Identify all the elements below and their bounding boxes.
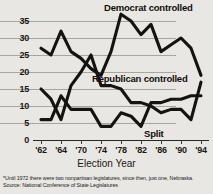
footnote-asterisk: *Until 1972 there were two nonpartisan l… [3,175,211,182]
series-label-republican: Republican controlled [92,74,188,84]
series-label-split: Split [144,129,164,139]
chart-figure: 35 30 25 20 15 10 5 0 '62 '64 '70 '74 '7… [0,0,213,194]
footnotes: *Until 1972 there were two nonpartisan l… [3,175,211,188]
x-axis-title: Election Year [0,158,213,169]
series-label-democrat: Democrat controlled [104,3,193,13]
footnote-source: Source: National Conference of State Leg… [3,182,211,189]
series-line-democrat [41,14,201,75]
series-line-republican [41,55,201,120]
